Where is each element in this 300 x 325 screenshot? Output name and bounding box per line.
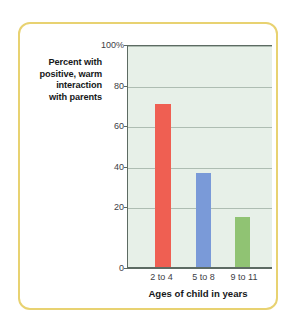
y-tick-mark-0 xyxy=(124,268,128,269)
y-tick-mark-100 xyxy=(124,45,128,46)
y-tick-mark-80 xyxy=(124,86,128,87)
x-axis-spine xyxy=(127,267,272,269)
y-tick-mark-40 xyxy=(124,167,128,168)
y-tick-label-60: 60 xyxy=(84,122,124,131)
y-tick-mark-60 xyxy=(124,126,128,127)
gridline-100 xyxy=(128,46,272,47)
y-tick-label-0: 0 xyxy=(84,264,124,273)
gridline-40 xyxy=(128,168,272,169)
bar-2-to-4[interactable] xyxy=(155,104,171,268)
x-tick-label-9-to-11: 9 to 11 xyxy=(215,272,273,283)
chart-figure: Percent with positive, warm interaction … xyxy=(0,0,300,325)
y-tick-label-40: 40 xyxy=(84,163,124,172)
y-tick-label-100: 100% xyxy=(84,41,124,50)
y-tick-label-20: 20 xyxy=(84,203,124,212)
x-axis-title: Ages of child in years xyxy=(118,288,278,299)
gridline-80 xyxy=(128,87,272,88)
bar-5-to-8[interactable] xyxy=(196,173,211,268)
y-axis-spine xyxy=(127,45,128,268)
x-axis-tick-labels: 2 to 4 5 to 8 9 to 11 xyxy=(128,272,272,286)
bar-9-to-11[interactable] xyxy=(235,217,250,268)
gridline-60 xyxy=(128,127,272,128)
y-tick-mark-20 xyxy=(124,207,128,208)
y-axis-tick-labels: 100% 80 60 40 20 0 xyxy=(80,0,124,325)
y-tick-label-80: 80 xyxy=(84,82,124,91)
plot-area xyxy=(128,45,272,268)
